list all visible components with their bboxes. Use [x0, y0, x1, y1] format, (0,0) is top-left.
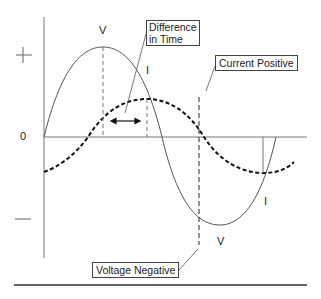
voltage-negative-callout: Voltage Negative — [92, 262, 179, 278]
voltage-label-bottom: V — [217, 236, 224, 247]
difference-in-time-callout: Difference in Time — [146, 20, 200, 46]
voltage-negative-leader-line — [179, 249, 198, 270]
difference-leader-line — [125, 34, 146, 113]
zero-label: 0 — [20, 131, 26, 142]
difference-in-time-line1: Difference — [149, 21, 197, 33]
plus-sign-icon — [16, 47, 32, 63]
current-positive-callout: Current Positive — [215, 55, 298, 71]
difference-in-time-line2: in Time — [149, 33, 197, 45]
current-label-bottom: I — [264, 196, 267, 207]
voltage-curve — [44, 47, 276, 225]
current-label-top: I — [146, 65, 149, 76]
current-positive-leader-line — [206, 66, 215, 91]
voltage-label-top: V — [99, 25, 106, 36]
double-headed-arrow-icon — [111, 119, 140, 124]
